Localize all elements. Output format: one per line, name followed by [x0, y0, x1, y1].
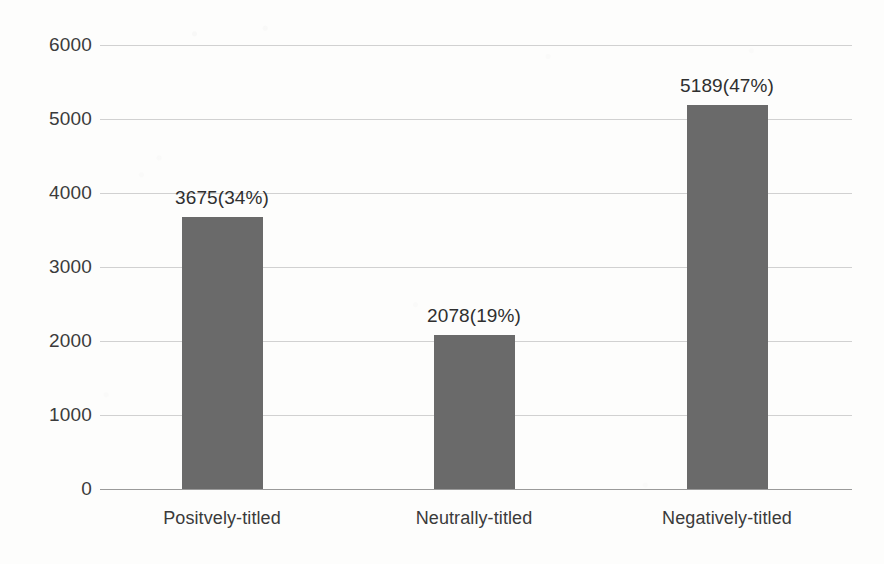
axis-baseline: [100, 489, 852, 490]
bar[interactable]: [687, 105, 768, 489]
y-axis-tick-label: 6000: [6, 34, 92, 56]
gridline: [100, 45, 852, 46]
chart-page: 0100020003000400050006000 3675(34%)2078(…: [0, 0, 884, 564]
plot-area: 3675(34%)2078(19%)5189(47%): [100, 45, 852, 489]
x-axis-category-label: Positvely-titled: [163, 508, 281, 529]
y-axis-tick-label: 0: [6, 478, 92, 500]
x-axis-category-label: Negatively-titled: [662, 508, 792, 529]
bar-value-label: 2078(19%): [427, 305, 521, 327]
y-axis-tick-label: 4000: [6, 182, 92, 204]
bar-value-label: 3675(34%): [175, 187, 269, 209]
bar[interactable]: [434, 335, 515, 489]
bar[interactable]: [182, 217, 263, 489]
y-axis: 0100020003000400050006000: [0, 45, 92, 489]
y-axis-tick-label: 2000: [6, 330, 92, 352]
bar-value-label: 5189(47%): [680, 75, 774, 97]
y-axis-tick-label: 3000: [6, 256, 92, 278]
y-axis-tick-label: 5000: [6, 108, 92, 130]
y-axis-tick-label: 1000: [6, 404, 92, 426]
x-axis-category-label: Neutrally-titled: [416, 508, 533, 529]
